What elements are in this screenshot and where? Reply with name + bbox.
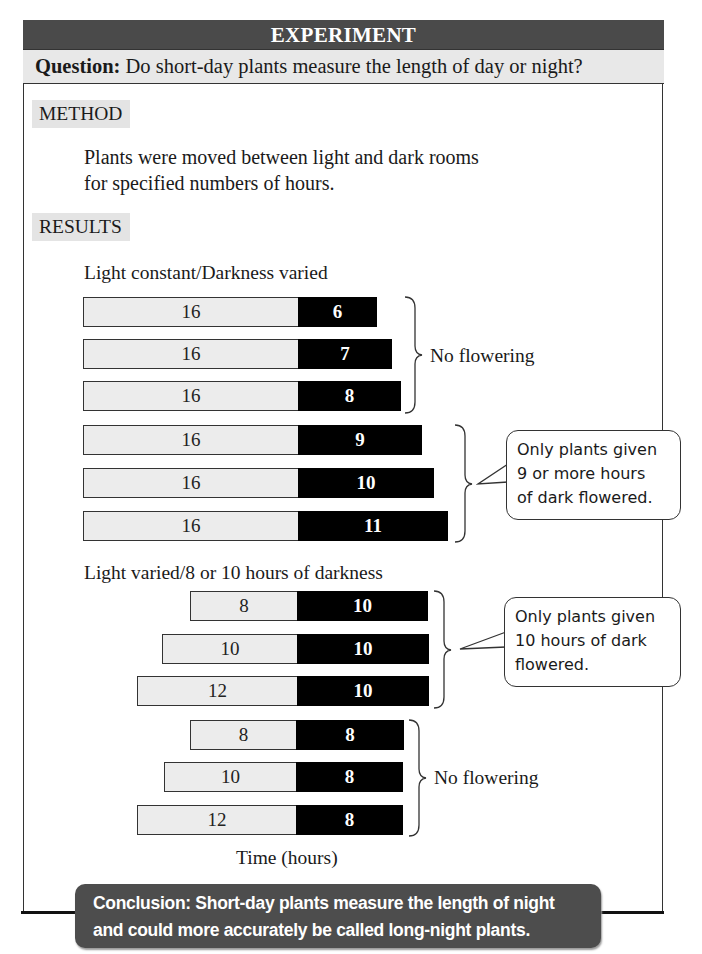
bar-row: 12 10 (137, 676, 429, 706)
light-segment: 16 (83, 425, 298, 455)
dark-segment: 8 (296, 720, 404, 750)
light-segment: 8 (190, 591, 297, 621)
light-segment: 12 (137, 676, 297, 706)
light-segment: 10 (164, 762, 296, 792)
dark-segment: 9 (298, 425, 422, 455)
callout-line: 9 or more hours (517, 462, 680, 486)
light-segment: 16 (83, 381, 298, 411)
dark-segment: 11 (298, 511, 448, 541)
bar-row: 16 10 (83, 468, 434, 498)
callout-line: flowered. (515, 653, 680, 677)
question-bar: Question: Do short-day plants measure th… (23, 49, 664, 84)
method-text: Plants were moved between light and dark… (84, 144, 479, 196)
dark-segment: 8 (298, 381, 401, 411)
light-segment: 12 (137, 805, 296, 835)
conclusion-line: Conclusion: Short-day plants measure the… (93, 890, 601, 917)
light-segment: 8 (190, 720, 296, 750)
results-label: RESULTS (32, 213, 130, 241)
bar-row: 12 8 (137, 805, 403, 835)
light-segment: 16 (83, 339, 298, 369)
brace-icon (432, 590, 454, 710)
method-line: for specified numbers of hours. (84, 170, 479, 196)
question-label: Question: (35, 55, 120, 77)
dark-segment: 6 (298, 297, 377, 327)
light-segment: 16 (83, 297, 298, 327)
callout-line: Only plants given (517, 438, 680, 462)
bar-row: 16 8 (83, 381, 401, 411)
x-axis-label: Time (hours) (236, 847, 338, 869)
callout-pointer-icon (458, 630, 508, 654)
callout-pointer-icon (476, 462, 510, 492)
bar-row: 8 8 (190, 720, 404, 750)
bar-row: 16 6 (83, 297, 377, 327)
dark-segment: 7 (298, 339, 392, 369)
conclusion-box: Conclusion: Short-day plants measure the… (75, 884, 601, 948)
bar-row: 8 10 (190, 591, 428, 621)
method-line: Plants were moved between light and dark… (84, 144, 479, 170)
brace-icon (403, 296, 425, 414)
group1-title: Light constant/Darkness varied (84, 262, 328, 284)
callout-10h-dark: Only plants given 10 hours of dark flowe… (504, 597, 681, 687)
bar-row: 10 8 (164, 762, 403, 792)
callout-line: of dark flowered. (517, 486, 680, 510)
group2-title: Light varied/8 or 10 hours of darkness (84, 562, 383, 584)
dark-segment: 8 (296, 762, 403, 792)
bar-row: 16 7 (83, 339, 392, 369)
no-flowering-note: No flowering (434, 767, 539, 789)
callout-line: Only plants given (515, 605, 680, 629)
dark-segment: 10 (297, 676, 429, 706)
dark-segment: 10 (298, 468, 434, 498)
dark-segment: 10 (297, 634, 429, 664)
light-segment: 16 (83, 468, 298, 498)
light-segment: 16 (83, 511, 298, 541)
bar-row: 16 11 (83, 511, 448, 541)
callout-9h-dark: Only plants given 9 or more hours of dar… (506, 430, 681, 520)
light-segment: 10 (162, 634, 297, 664)
bar-row: 10 10 (162, 634, 429, 664)
brace-icon (407, 719, 429, 837)
bar-row: 16 9 (83, 425, 422, 455)
dark-segment: 8 (296, 805, 403, 835)
experiment-header: EXPERIMENT (23, 20, 664, 49)
question-text: Do short-day plants measure the length o… (120, 55, 582, 77)
no-flowering-note: No flowering (430, 345, 535, 367)
method-label: METHOD (32, 100, 130, 128)
dark-segment: 10 (297, 591, 428, 621)
callout-line: 10 hours of dark (515, 629, 680, 653)
conclusion-line: and could more accurately be called long… (93, 917, 601, 944)
